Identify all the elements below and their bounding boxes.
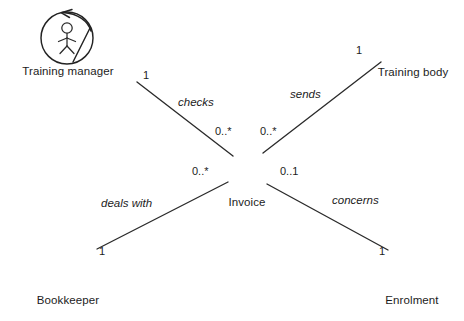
node-label-enrolment: Enrolment — [352, 294, 464, 306]
association-lines — [97, 62, 388, 250]
node-symbol-training-manager[interactable] — [41, 10, 93, 65]
association-line-checks[interactable] — [137, 82, 233, 156]
association-label-concerns: concerns — [332, 194, 379, 206]
association-label-checks: checks — [178, 96, 214, 108]
multiplicity-checks-near-manager: 1 — [143, 69, 149, 81]
multiplicity-deals-with-near-invoice: 0..* — [192, 165, 209, 177]
multiplicity-checks-near-invoice: 0..* — [215, 125, 232, 137]
multiplicity-concerns-near-enrolment: 1 — [379, 245, 385, 257]
node-label-bookkeeper: Bookkeeper — [8, 294, 128, 306]
actor-arm-right-training-manager — [67, 38, 76, 42]
association-line-deals-with[interactable] — [97, 182, 228, 249]
node-label-training-body: Training body — [353, 66, 464, 78]
actor-head-training-manager — [62, 23, 72, 33]
uml-diagram-canvas: Training manager Training body Invoice B… — [0, 0, 464, 321]
association-label-sends: sends — [290, 88, 321, 100]
actor-chord-training-manager — [73, 28, 90, 62]
multiplicity-concerns-near-invoice: 0..1 — [280, 165, 298, 177]
multiplicity-deals-with-near-bookkeeper: 1 — [99, 245, 105, 257]
actor-leg-left-training-manager — [60, 46, 67, 54]
node-label-training-manager: Training manager — [0, 65, 136, 77]
actor-leg-right-training-manager — [67, 46, 74, 54]
multiplicity-sends-near-invoice: 0..* — [260, 125, 277, 137]
multiplicity-sends-near-body: 1 — [356, 44, 362, 56]
node-label-invoice: Invoice — [197, 196, 297, 208]
diagram-vector-layer — [0, 0, 464, 321]
association-label-deals-with: deals with — [101, 197, 152, 209]
actor-arm-left-training-manager — [59, 38, 68, 42]
